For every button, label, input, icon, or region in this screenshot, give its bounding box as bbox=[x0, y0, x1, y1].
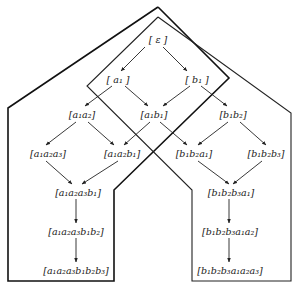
node-b1b2b3a1: [b₁b₂b₃a₁] bbox=[208, 187, 255, 198]
node-a1a2b1: [a₁a₂b₁] bbox=[104, 148, 141, 159]
edge-arrow bbox=[121, 47, 145, 71]
region-a-first-outline bbox=[8, 7, 229, 281]
edge-arrow bbox=[46, 161, 72, 184]
edge-arrow bbox=[201, 86, 227, 106]
edge-arrow bbox=[124, 122, 150, 145]
node-b1b2b3a1a2a3: [b₁b₂b₃a₁a₂a₃] bbox=[197, 265, 263, 276]
node-a1b1: [a₁b₁] bbox=[141, 109, 168, 120]
edge-arrow bbox=[240, 122, 266, 145]
edge-arrow bbox=[198, 122, 228, 145]
node-a1a2a3b1: [a₁a₂a₃b₁] bbox=[55, 187, 101, 198]
node-a1a2a3b1b2b3: [a₁a₂a₃b₁b₂b₃] bbox=[43, 265, 109, 276]
edge-arrow bbox=[82, 161, 118, 184]
edge-arrow bbox=[88, 122, 114, 145]
node-a1a2a3: [a₁a₂a₃] bbox=[30, 148, 66, 159]
node-a1: [ a₁ ] bbox=[107, 74, 130, 85]
edge-arrow bbox=[163, 86, 190, 106]
node-b1b2b3a1a2: [b₁b₂b₃a₁a₂] bbox=[202, 226, 258, 237]
node-a1a2: [a₁a₂] bbox=[69, 109, 96, 120]
node-b1: [ b₁ ] bbox=[185, 74, 209, 85]
node-b1b2: [b₁b₂] bbox=[219, 109, 246, 120]
node-b1b2b3: [b₁b₂b₃] bbox=[247, 148, 284, 159]
edge-arrow bbox=[125, 86, 148, 106]
edge-arrow bbox=[233, 161, 262, 184]
node-b1b2a1: [b₁b₂a₁] bbox=[176, 148, 213, 159]
node-a1a2a3b1b2: [a₁a₂a₃b₁b₂] bbox=[48, 226, 104, 237]
state-lattice-diagram: [ ε ][ a₁ ][ b₁ ][a₁a₂][a₁b₁][b₁b₂][a₁a₂… bbox=[0, 0, 298, 298]
edge-arrow bbox=[198, 161, 229, 184]
region-outlines bbox=[8, 7, 291, 281]
edge-arrow bbox=[85, 86, 112, 106]
node-eps: [ ε ] bbox=[149, 34, 168, 45]
nodes: [ ε ][ a₁ ][ b₁ ][a₁a₂][a₁b₁][b₁b₂][a₁a₂… bbox=[30, 34, 285, 276]
edge-arrow bbox=[46, 122, 76, 145]
edge-arrow bbox=[163, 47, 187, 71]
